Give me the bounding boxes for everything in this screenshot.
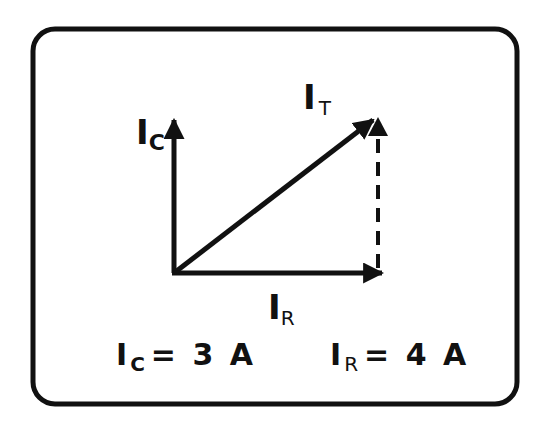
it-label-main: I <box>303 77 316 117</box>
ic-equation: IC= 3 A <box>116 340 256 370</box>
ir-label: IR <box>268 290 295 324</box>
ic-label: IC <box>136 115 165 149</box>
it-vector-arrow <box>174 120 373 273</box>
ir-equation-value: = 4 A <box>364 337 469 372</box>
ic-equation-sub: C <box>130 352 145 376</box>
ir-equation: IR= 4 A <box>330 340 469 370</box>
ic-label-main: I <box>136 112 149 152</box>
ir-equation-sub: R <box>344 352 358 376</box>
ic-equation-main: I <box>116 337 130 372</box>
it-label: IT <box>303 80 328 114</box>
phasor-diagram: IC IT IR IC= 3 A IR= 4 A <box>0 0 535 422</box>
it-label-sub: T <box>319 96 331 120</box>
ic-label-sub: C <box>149 130 165 155</box>
ir-label-main: I <box>268 287 281 327</box>
ir-label-sub: R <box>281 306 295 330</box>
ir-equation-main: I <box>330 337 344 372</box>
ic-equation-value: = 3 A <box>151 337 256 372</box>
